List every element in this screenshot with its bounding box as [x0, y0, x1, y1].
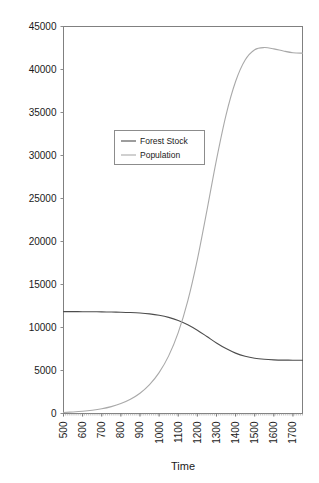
chart-legend: Forest Stock Population	[115, 131, 205, 165]
y-tick-label: 45000	[29, 21, 57, 32]
x-axis: 5006007008009001000110012001300140015001…	[58, 414, 298, 444]
x-tick-label: 800	[115, 421, 126, 438]
y-tick-label: 10000	[29, 322, 57, 333]
x-tick-label: 1500	[249, 421, 260, 444]
y-tick-label: 5000	[34, 365, 57, 376]
y-tick-label: 40000	[29, 64, 57, 75]
x-tick-label: 1300	[211, 421, 222, 444]
legend-label-population: Population	[140, 150, 180, 160]
plot-area-border	[64, 27, 303, 414]
x-tick-label: 1400	[230, 421, 241, 444]
y-tick-label: 25000	[29, 193, 57, 204]
x-tick-label: 700	[96, 421, 107, 438]
x-tick-label: 1200	[192, 421, 203, 444]
y-tick-label: 30000	[29, 150, 57, 161]
y-axis: 0500010000150002000025000300003500040000…	[29, 21, 64, 419]
x-tick-label: 1100	[173, 421, 184, 443]
x-tick-label: 600	[77, 421, 88, 438]
legend-label-forest-stock: Forest Stock	[140, 136, 188, 146]
x-tick-label: 900	[134, 421, 145, 438]
x-tick-label: 1700	[287, 421, 298, 444]
line-chart: 0500010000150002000025000300003500040000…	[0, 0, 319, 483]
chart-container: 0500010000150002000025000300003500040000…	[0, 0, 319, 483]
x-tick-label: 1000	[154, 421, 165, 444]
y-tick-label: 0	[51, 408, 57, 419]
y-tick-label: 35000	[29, 107, 57, 118]
x-axis-title: Time	[171, 460, 195, 472]
y-tick-label: 20000	[29, 236, 57, 247]
x-tick-label: 500	[58, 421, 69, 438]
plot-frame	[64, 27, 303, 414]
y-tick-label: 15000	[29, 279, 57, 290]
x-tick-label: 1600	[268, 421, 279, 444]
